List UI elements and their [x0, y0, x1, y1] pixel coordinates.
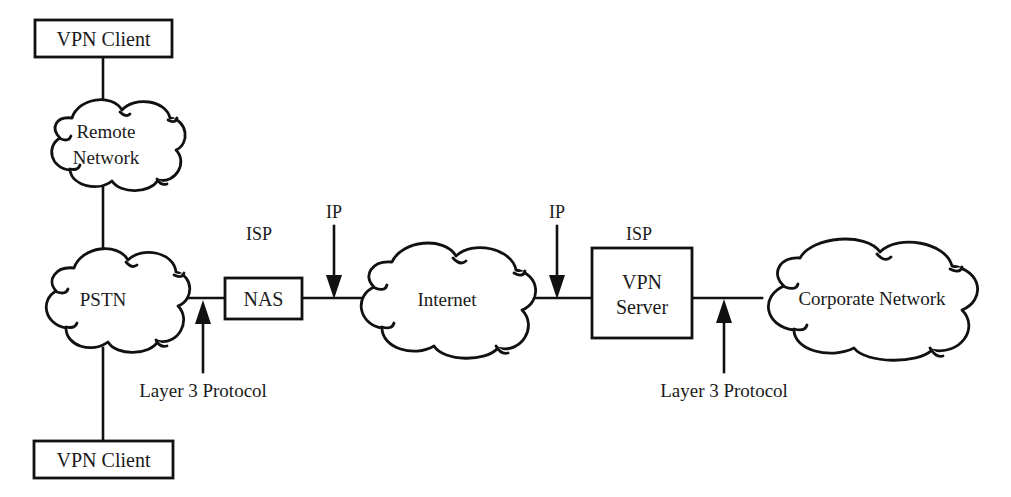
diagram-svg: Remote Network PSTN Internet: [0, 0, 1011, 497]
vpn-server-box: [592, 248, 692, 338]
node-vpn-client-top: VPN Client: [35, 20, 172, 57]
annotation-ip-left: IP: [326, 202, 342, 299]
remote-network-label-line1: Remote: [76, 121, 135, 142]
node-remote-network: Remote Network: [52, 100, 185, 191]
isp-label-left: ISP: [246, 224, 272, 244]
layer3-right-arrow-head: [716, 299, 732, 323]
node-vpn-server: VPN Server ISP: [592, 224, 692, 338]
pstn-label: PSTN: [80, 289, 127, 310]
vpn-server-label-line1: VPN: [622, 271, 662, 293]
layer3-right-label: Layer 3 Protocol: [660, 380, 788, 401]
annotation-ip-right: IP: [549, 202, 565, 299]
ip-right-arrow-head: [549, 275, 565, 299]
nas-label: NAS: [243, 288, 283, 310]
network-diagram-canvas: Remote Network PSTN Internet: [0, 0, 1011, 497]
vpn-client-top-label: VPN Client: [57, 28, 151, 50]
layer3-left-label: Layer 3 Protocol: [139, 380, 267, 401]
internet-label: Internet: [417, 289, 477, 310]
ip-left-arrow-head: [326, 275, 342, 299]
remote-network-label-line2: Network: [73, 147, 140, 168]
vpn-client-bottom-label: VPN Client: [57, 449, 151, 471]
ip-left-label: IP: [326, 202, 342, 222]
layer3-left-arrow-head: [195, 300, 211, 324]
node-nas: NAS ISP: [225, 224, 302, 319]
node-vpn-client-bottom: VPN Client: [34, 441, 173, 478]
node-corporate-network: Corporate Network: [768, 239, 977, 360]
ip-right-label: IP: [549, 202, 565, 222]
isp-label-right: ISP: [626, 224, 652, 244]
vpn-server-label-line2: Server: [616, 296, 669, 318]
node-internet: Internet: [361, 243, 535, 358]
node-pstn: PSTN: [46, 249, 189, 353]
corporate-network-label: Corporate Network: [798, 288, 946, 309]
